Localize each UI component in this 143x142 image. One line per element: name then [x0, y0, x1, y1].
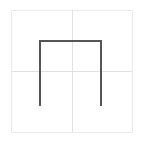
glyph-canvas	[0, 0, 143, 142]
glyph-drawing	[0, 0, 143, 142]
